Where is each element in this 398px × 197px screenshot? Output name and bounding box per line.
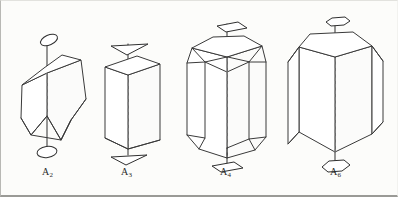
crystal-label-a6: A6 (330, 166, 341, 177)
crystal-label-a4-subscript: 4 (227, 171, 231, 179)
a6-left-face (299, 47, 335, 152)
a3-left-face (105, 67, 128, 149)
a2-bottom-lens-marker (36, 145, 57, 159)
crystal-label-a2-subscript: 2 (49, 171, 53, 179)
crystal-a4 (187, 22, 266, 172)
crystal-label-a3: A3 (121, 166, 132, 177)
crystal-a6 (288, 17, 383, 172)
crystal-a2 (21, 32, 86, 159)
a6-left-narrow-face (288, 47, 299, 144)
a4-left-face (187, 48, 227, 158)
a3-top-triangle-marker (111, 44, 148, 55)
crystal-a3 (105, 44, 160, 165)
crystal-label-a4: A4 (220, 166, 231, 177)
a6-top-hexagon-marker (326, 17, 350, 26)
crystal-label-a6-subscript: 6 (337, 171, 341, 179)
crystal-label-a2: A2 (42, 166, 53, 177)
a3-right-face (128, 64, 160, 149)
a4-top-square-marker (217, 22, 247, 32)
crystal-symmetry-figure: A2 A3 A4 A6 (0, 0, 398, 197)
crystal-label-a3-subscript: 3 (128, 171, 132, 179)
a2-top-lens-marker (39, 32, 60, 48)
a3-bottom-triangle-marker (111, 155, 147, 165)
a6-right-face (335, 46, 372, 152)
